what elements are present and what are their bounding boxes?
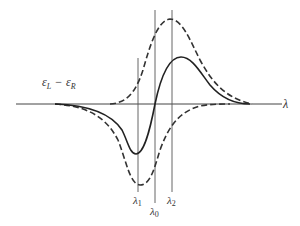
lambda1-label: λ1 [132,194,142,208]
x-axis-label: λ [282,97,288,111]
lambda0-label: λ0 [149,205,159,219]
cd-diagram: εL−εR λ λ1 λ0 λ2 [0,0,300,226]
lambda2-label: λ2 [166,194,176,208]
upper-dashed-curve [110,19,252,104]
solid-cd-curve [55,57,250,154]
lower-dashed-curve [55,104,230,185]
y-label: εL−εR [42,75,76,91]
